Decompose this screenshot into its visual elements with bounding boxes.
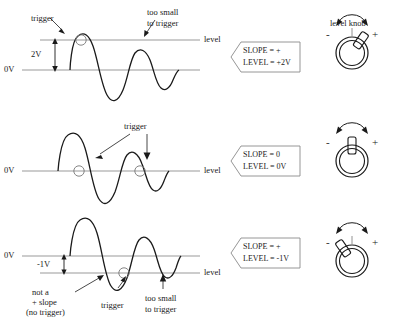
trigger-arrowhead [59, 29, 66, 35]
knob-minus-label: - [326, 29, 330, 40]
not-a-plus-slope-line2: + slope [32, 297, 57, 307]
knob-graphic-top [320, 0, 399, 108]
trigger-label: trigger [31, 13, 54, 23]
trigger-arrowhead-1 [95, 155, 103, 159]
panel-top: 0V level 2V trigger too small to trigger… [0, 0, 399, 108]
knob-arc-arrowhead-right [362, 127, 369, 135]
callout-level-line: LEVEL = 0V [243, 161, 286, 172]
panel-bottom: 0V level -1V not a + slope (no trigger) … [0, 216, 399, 324]
callout-slope-line: SLOPE = + [243, 45, 280, 56]
not-a-plus-slope-line1: not a [32, 287, 49, 297]
knob-inner-ring [340, 249, 365, 274]
too-small-arrowhead [144, 30, 149, 37]
knob-plus-label: + [372, 237, 378, 248]
knob-rotation-arc [338, 123, 366, 131]
knob-minus-label: - [326, 237, 330, 248]
knob-rotation-arc [338, 223, 366, 231]
waveform [70, 34, 179, 101]
baseline-label: 0V [4, 64, 14, 74]
level-offset-arrowhead-up [52, 38, 58, 44]
callout-slope-line: SLOPE = 0 [243, 149, 280, 160]
knob-arc-arrowhead-right [362, 227, 369, 235]
panel-middle: 0V level trigger SLOPE = 0 LEVEL = 0V - … [0, 108, 399, 216]
knob-inner-ring [340, 41, 365, 66]
level-label: level [204, 34, 221, 44]
level-offset-label: -1V [37, 259, 50, 269]
level-offset-arrowhead-down [52, 66, 58, 72]
not-a-plus-slope-arrowhead [97, 275, 104, 281]
level-label: level [204, 165, 221, 175]
knob-outer-ring [336, 245, 368, 277]
not-a-plus-slope-line3: (no trigger) [26, 307, 65, 317]
callout-slope-line: SLOPE = + [243, 241, 280, 252]
trigger-arrowhead-2 [144, 153, 151, 161]
too-small-label-line1: too small [147, 7, 178, 17]
knob-plus-label: + [372, 29, 378, 40]
level-label: level [204, 267, 221, 277]
knob-graphic-bottom [320, 208, 399, 316]
level-offset-label: 2V [31, 49, 41, 59]
knob-outer-ring [336, 37, 368, 69]
too-small-label-line2: to trigger [145, 304, 176, 314]
too-small-label-line1: too small [145, 293, 176, 303]
trigger-label: trigger [101, 300, 124, 310]
baseline-label: 0V [4, 165, 14, 175]
knob-plus-label: + [372, 137, 378, 148]
trigger-leader-1 [100, 134, 130, 154]
knob-title: level knob [330, 18, 366, 28]
not-a-plus-slope-leader [75, 278, 99, 292]
figure-root: 0V level 2V trigger too small to trigger… [0, 0, 399, 324]
knob-minus-label: - [326, 137, 330, 148]
knob-graphic-middle [320, 108, 399, 216]
level-offset-arrowhead-up [61, 254, 66, 260]
trigger-label: trigger [124, 121, 147, 131]
level-offset-arrowhead-down [61, 270, 66, 276]
baseline-label: 0V [4, 250, 14, 260]
callout-level-line: LEVEL = -1V [243, 253, 289, 264]
knob-arc-arrowhead-left [336, 127, 343, 135]
knob-arc-arrowhead-left [336, 227, 343, 235]
too-small-label-line2: to trigger [147, 18, 178, 28]
callout-level-line: LEVEL = +2V [243, 57, 291, 68]
